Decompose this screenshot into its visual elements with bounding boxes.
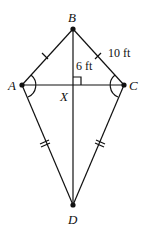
vertex-d-dot: [70, 202, 75, 207]
label-a: A: [7, 78, 16, 93]
label-d: D: [67, 212, 78, 227]
label-c: C: [129, 78, 138, 93]
right-angle-marker: [73, 77, 81, 85]
angle-arc-c: [110, 75, 118, 97]
kite-diagram: B A C X D 6 ft 10 ft: [0, 0, 150, 235]
vertex-b-dot: [70, 26, 75, 31]
vertex-a-dot: [19, 82, 24, 87]
label-b: B: [68, 10, 76, 25]
tick-ab: [42, 53, 48, 59]
side-ab: [22, 29, 73, 85]
label-x: X: [59, 89, 69, 104]
measure-bc: 10 ft: [108, 46, 131, 60]
angle-arc-a: [28, 75, 36, 97]
measure-bx: 6 ft: [76, 59, 93, 73]
vertex-c-dot: [121, 82, 126, 87]
